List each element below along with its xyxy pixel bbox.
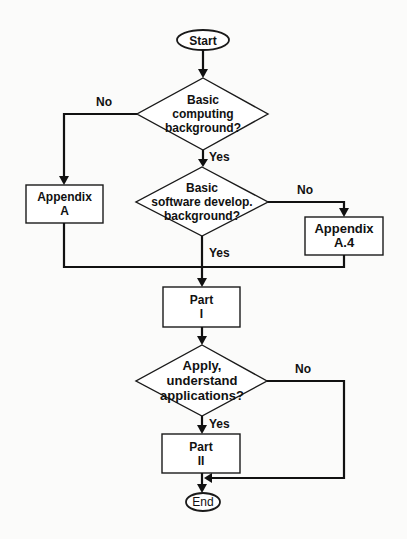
part-2-line-2: II <box>198 454 205 468</box>
decision-apply-line-3: applications? <box>160 388 244 403</box>
decision-apply-label: Apply, understand applications? <box>146 357 258 403</box>
edge-label-software-no: No <box>297 183 313 197</box>
part-2-label: Part II <box>162 438 240 470</box>
edge-label-software-yes: Yes <box>209 246 230 260</box>
edge-software-no-to-appendix-a4 <box>268 202 344 209</box>
edge-label-apply-yes: Yes <box>209 417 230 431</box>
edge-label-computing-yes: Yes <box>209 150 230 164</box>
appendix-a4-line-1: Appendix <box>314 222 373 236</box>
arrowhead-icon <box>198 159 208 167</box>
edge-computing-no-to-appendix-a <box>64 114 137 177</box>
arrowhead-icon <box>197 484 207 493</box>
edge-label-computing-no: No <box>96 95 112 109</box>
decision-computing-line-2: computing <box>172 107 233 121</box>
part-1-label: Part I <box>163 291 240 323</box>
edge-appendix-a-to-merge <box>64 223 202 267</box>
edge-label-apply-no: No <box>295 362 311 376</box>
decision-software-label: Basic software develop. background? <box>140 181 264 223</box>
appendix-a4-label: Appendix A.4 <box>305 220 383 252</box>
appendix-a-line-2: A <box>60 204 69 218</box>
arrowhead-icon <box>197 278 207 287</box>
appendix-a-line-1: Appendix <box>37 190 92 204</box>
decision-software-line-2: software develop. <box>151 195 252 209</box>
part-1-line-2: I <box>200 307 203 321</box>
end-terminal-label: End <box>186 494 220 510</box>
part-2-line-1: Part <box>189 440 212 454</box>
arrowhead-icon <box>197 425 207 434</box>
arrowhead-icon <box>339 208 349 217</box>
arrowhead-icon <box>197 336 207 345</box>
flowchart-canvas: Start Basic computing background? Append… <box>0 0 407 539</box>
arrowhead-icon <box>59 176 69 185</box>
start-terminal-label: Start <box>177 32 229 49</box>
decision-software-line-3: background? <box>164 209 240 223</box>
start-text: Start <box>189 34 216 48</box>
decision-computing-line-3: background? <box>165 121 241 135</box>
arrowhead-icon <box>204 473 212 483</box>
part-1-line-1: Part <box>190 293 213 307</box>
decision-apply-line-1: Apply, <box>183 358 222 373</box>
decision-computing-label: Basic computing background? <box>150 93 256 135</box>
end-text: End <box>192 495 213 509</box>
appendix-a4-line-2: A.4 <box>334 236 354 250</box>
arrowhead-icon <box>198 69 208 78</box>
decision-computing-line-1: Basic <box>187 93 219 107</box>
appendix-a-label: Appendix A <box>26 188 103 220</box>
decision-software-line-1: Basic <box>186 181 218 195</box>
decision-apply-line-2: understand <box>167 373 238 388</box>
